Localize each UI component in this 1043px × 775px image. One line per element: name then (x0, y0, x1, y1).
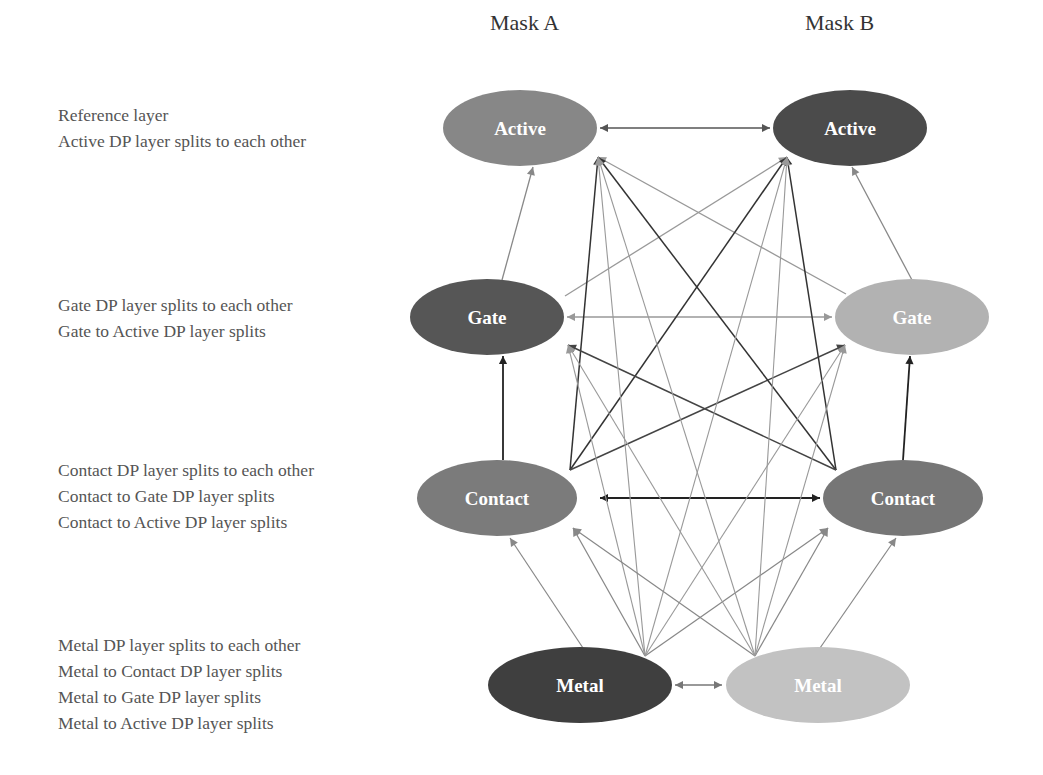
edge-line (568, 345, 755, 656)
node-label: Gate (467, 307, 506, 328)
edge-line (852, 167, 912, 280)
node-label: Gate (892, 307, 931, 328)
bidirectional-split-edge (567, 313, 832, 321)
split-edge (499, 356, 507, 460)
split-edge (570, 345, 845, 470)
edge-line (645, 528, 828, 656)
split-edge (598, 157, 836, 470)
node-label: Active (824, 118, 876, 139)
arrowhead-icon (888, 538, 896, 547)
bidirectional-split-edge (675, 681, 722, 689)
edge-line (903, 356, 910, 460)
node-metal-mask-b: Metal (726, 647, 910, 723)
node-gate-mask-b: Gate (835, 279, 989, 355)
split-edge (568, 345, 755, 656)
arrowhead-icon (567, 313, 575, 321)
arrowhead-icon (714, 681, 722, 689)
edge-line (598, 157, 836, 470)
node-label: Contact (465, 488, 530, 509)
arrowhead-icon (824, 313, 832, 321)
arrowhead-icon (812, 494, 820, 502)
node-active-mask-a: Active (443, 90, 597, 166)
node-contact-mask-a: Contact (417, 460, 577, 536)
node-active-mask-b: Active (773, 90, 927, 166)
split-edge (903, 356, 914, 460)
arrowhead-icon (510, 538, 518, 547)
node-gate-mask-a: Gate (410, 279, 564, 355)
node-label: Metal (556, 675, 603, 696)
node-label: Active (494, 118, 546, 139)
node-metal-mask-a: Metal (488, 647, 672, 723)
bidirectional-split-edge (600, 124, 770, 132)
arrowhead-icon (600, 124, 608, 132)
edge-line (568, 345, 645, 656)
arrowhead-icon (499, 356, 507, 364)
edge-line (570, 345, 845, 470)
arrowhead-icon (675, 681, 683, 689)
split-edge (852, 167, 912, 280)
edge-layer (499, 124, 914, 689)
split-edge (502, 167, 535, 280)
split-edge (510, 538, 583, 648)
arrowhead-icon (762, 124, 770, 132)
split-edge (755, 528, 828, 656)
node-label: Metal (794, 675, 841, 696)
dp-split-diagram: ActiveActiveGateGateContactContactMetalM… (0, 0, 1043, 775)
edge-line (820, 538, 896, 648)
edge-line (755, 157, 787, 656)
edge-line (568, 345, 836, 470)
split-edge (597, 157, 755, 656)
node-contact-mask-b: Contact (823, 460, 983, 536)
node-label: Contact (871, 488, 936, 509)
split-edge (820, 538, 896, 648)
bidirectional-split-edge (600, 494, 820, 502)
arrowhead-icon (527, 167, 535, 176)
split-edge (755, 157, 791, 656)
split-edge (573, 528, 755, 656)
split-edge (568, 345, 836, 470)
edge-line (502, 167, 533, 280)
edge-line (755, 528, 828, 656)
arrowhead-icon (905, 356, 913, 364)
split-edge (645, 528, 828, 656)
split-edge (784, 157, 836, 470)
edge-line (510, 538, 583, 648)
edge-line (573, 528, 755, 656)
